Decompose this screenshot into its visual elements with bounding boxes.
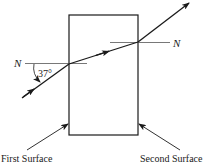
second-surface-pointer bbox=[139, 124, 180, 150]
second-surface-label: Second Surface bbox=[140, 153, 203, 164]
refracted-arrow-icon bbox=[96, 51, 109, 55]
refraction-diagram: 37° N N First Surface Second Surface bbox=[0, 0, 213, 166]
glass-block bbox=[69, 15, 138, 135]
emergent-ray bbox=[138, 3, 189, 42]
first-surface-pointer bbox=[27, 124, 68, 150]
normal-label-left: N bbox=[13, 57, 22, 69]
incident-arrow-icon bbox=[23, 89, 34, 97]
first-surface-label: First Surface bbox=[1, 153, 53, 164]
angle-label: 37° bbox=[38, 68, 52, 79]
normal-label-right: N bbox=[172, 37, 181, 49]
